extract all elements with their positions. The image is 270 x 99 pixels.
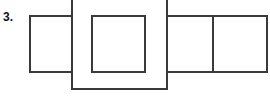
right-face-rectangle-2 xyxy=(213,16,267,72)
left-face-rectangle xyxy=(30,16,72,72)
net-diagram-svg xyxy=(0,0,270,99)
figure-container: 3. xyxy=(0,0,270,99)
right-face-rectangle-1 xyxy=(167,16,213,72)
inner-rectangle xyxy=(92,16,145,72)
